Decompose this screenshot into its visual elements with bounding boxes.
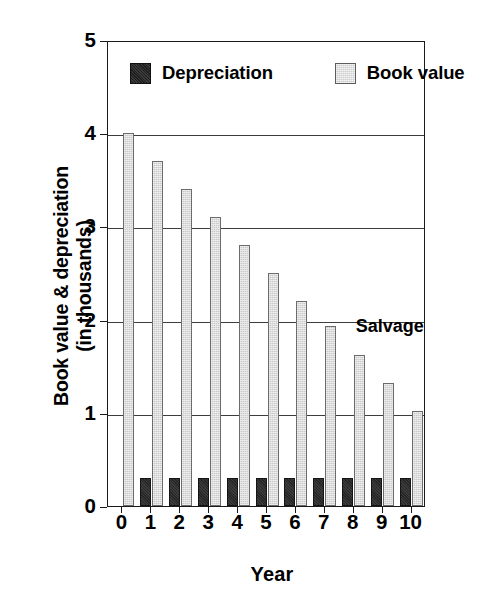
bar-depreciation: [140, 478, 151, 506]
y-tick-mark: [100, 227, 107, 228]
dark-swatch-icon: [130, 63, 151, 84]
x-tick-mark: [266, 507, 267, 513]
bar-depreciation: [169, 478, 180, 506]
bar-book-value: [210, 217, 221, 506]
bar-depreciation: [400, 478, 411, 506]
bar-depreciation: [371, 478, 382, 506]
bar-book-value: [152, 161, 163, 506]
bar-book-value: [123, 133, 134, 506]
bar-book-value: [383, 383, 394, 506]
bar-depreciation: [198, 478, 209, 506]
y-tick-label: 0: [62, 496, 96, 517]
y-tick-mark: [100, 41, 107, 42]
plot-area: Salvage Depreciation Book value: [107, 41, 425, 507]
bar-book-value: [412, 411, 423, 506]
bar-book-value: [268, 273, 279, 506]
bar-book-value: [354, 355, 365, 506]
bar-depreciation: [313, 478, 324, 506]
y-tick-mark: [100, 414, 107, 415]
x-tick-mark: [150, 507, 151, 513]
bar-depreciation: [227, 478, 238, 506]
x-axis-title: Year: [0, 563, 500, 586]
y-axis-title-line-2: (in thousands): [73, 166, 96, 406]
bar-book-value: [181, 189, 192, 506]
x-tick-mark: [411, 507, 412, 513]
legend: Depreciation Book value: [130, 62, 465, 84]
legend-label-book-value: Book value: [367, 62, 465, 84]
bar-series-layer: [108, 42, 424, 506]
x-tick-mark: [295, 507, 296, 513]
y-tick-label: 1: [62, 403, 96, 424]
y-tick-label: 4: [62, 123, 96, 144]
y-axis-title-line-1: Book value & depreciation: [50, 166, 73, 406]
salvage-annotation: Salvage: [356, 316, 424, 337]
x-tick-label: 10: [391, 512, 431, 533]
x-tick-mark: [121, 507, 122, 513]
y-tick-label: 5: [62, 30, 96, 51]
y-tick-label: 3: [62, 216, 96, 237]
y-tick-mark: [100, 321, 107, 322]
x-tick-mark: [179, 507, 180, 513]
legend-item-depreciation: Depreciation: [130, 62, 273, 84]
bar-book-value: [296, 301, 307, 506]
legend-label-depreciation: Depreciation: [162, 62, 273, 84]
x-tick-mark: [324, 507, 325, 513]
y-tick-mark: [100, 507, 107, 508]
x-tick-mark: [208, 507, 209, 513]
x-tick-mark: [353, 507, 354, 513]
y-tick-mark: [100, 134, 107, 135]
bar-depreciation: [284, 478, 295, 506]
x-tick-mark: [382, 507, 383, 513]
bar-book-value: [325, 326, 336, 506]
bar-book-value: [239, 245, 250, 506]
bar-depreciation: [342, 478, 353, 506]
bar-depreciation: [256, 478, 267, 506]
y-tick-label: 2: [62, 310, 96, 331]
x-tick-mark: [237, 507, 238, 513]
light-swatch-icon: [335, 63, 356, 84]
x-axis-title-text: Year: [250, 563, 293, 585]
bar-chart: Book value & depreciation (in thousands)…: [0, 0, 500, 604]
legend-item-book-value: Book value: [335, 62, 465, 84]
